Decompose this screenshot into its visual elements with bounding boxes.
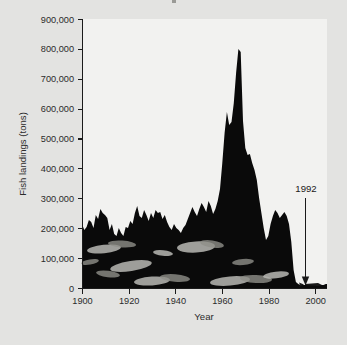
x-tick-label: 1980 — [259, 296, 279, 306]
x-tick-label: 1960 — [212, 296, 232, 306]
fish-landings-area-chart: 0 100,000 200,000 300,000 400,000 500,00… — [0, 0, 347, 345]
chart-figure: 0 100,000 200,000 300,000 400,000 500,00… — [0, 0, 347, 345]
x-tick-label: 2000 — [305, 296, 325, 306]
x-tick-label: 1940 — [166, 296, 186, 306]
annotation-label-1992: 1992 — [295, 183, 316, 194]
y-axis-title: Fish landings (tons) — [17, 112, 28, 196]
title-fragment — [172, 0, 176, 3]
y-tick-label: 200,000 — [41, 224, 74, 234]
y-tick-label: 500,000 — [41, 134, 74, 144]
y-tick-label: 100,000 — [41, 254, 74, 264]
y-tick-label: 0 — [69, 284, 74, 294]
y-tick-label: 600,000 — [41, 104, 74, 114]
y-tick-label: 700,000 — [41, 74, 74, 84]
y-tick-label: 400,000 — [41, 164, 74, 174]
y-tick-label: 800,000 — [41, 44, 74, 54]
x-tick-label: 1920 — [119, 296, 139, 306]
y-tick-label: 300,000 — [41, 194, 74, 204]
x-tick-label: 1900 — [72, 296, 92, 306]
y-tick-label: 900,000 — [41, 15, 74, 25]
x-axis-title: Year — [194, 311, 214, 322]
